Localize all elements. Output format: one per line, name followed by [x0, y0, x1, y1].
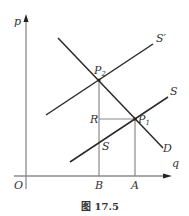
supply-demand-diagram: p q O S′ S D P2 P1 S R B A 图 17.5	[0, 0, 189, 216]
supply-curve-S	[70, 97, 168, 162]
curve-label-S: S	[170, 85, 178, 98]
curve-label-S-prime: S′	[156, 32, 167, 45]
axes	[14, 14, 172, 189]
q-axis-label: q	[172, 157, 179, 170]
figure-caption: 图 17.5	[81, 201, 119, 212]
guide-lines	[99, 80, 135, 176]
curve-label-D: D	[162, 142, 172, 155]
demand-curve-D	[58, 38, 163, 148]
origin-label: O	[14, 179, 23, 192]
point-P2	[97, 78, 100, 81]
point-P1	[133, 117, 136, 120]
point-label-P1: P1	[137, 113, 150, 127]
point-label-S: S	[102, 140, 110, 153]
point-label-P2: P2	[93, 64, 106, 78]
axis-mark-B: B	[94, 179, 103, 192]
p-axis-label: p	[14, 15, 21, 28]
axis-mark-A: A	[130, 179, 139, 192]
p-axis-arrow-icon	[24, 14, 29, 22]
q-axis-arrow-icon	[163, 174, 172, 179]
axis-mark-R: R	[89, 113, 98, 126]
